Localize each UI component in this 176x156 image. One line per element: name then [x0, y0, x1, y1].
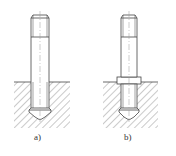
figure-b: [103, 11, 158, 128]
stud-a: [31, 15, 49, 108]
figure-a-label: a): [34, 132, 41, 142]
stud-drawing: [0, 0, 176, 156]
figure-b-label: b): [124, 132, 132, 142]
figure-a: [14, 11, 70, 128]
